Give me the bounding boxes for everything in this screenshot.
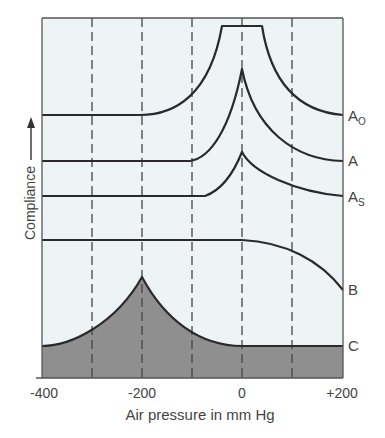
x-tick-minus200: -200 [128,385,156,401]
plot-area [42,18,343,378]
series-label-as: AS [348,188,365,208]
x-tick-0: 0 [238,385,246,401]
x-axis-title: Air pressure in mm Hg [125,406,274,423]
series-label-a0: AO [348,107,366,127]
tympanogram-chart: AO A AS B C -400 -200 0 +200 Air pressur… [0,0,385,438]
series-label-a: A [348,152,358,169]
y-axis-title: Compliance [22,166,38,240]
x-tick-plus200: +200 [326,385,358,401]
up-arrow-icon [27,117,35,128]
x-tick-minus400: -400 [30,385,58,401]
series-label-b: B [348,281,358,298]
series-label-c: C [348,337,359,354]
y-axis-title-group: Compliance [22,117,38,240]
